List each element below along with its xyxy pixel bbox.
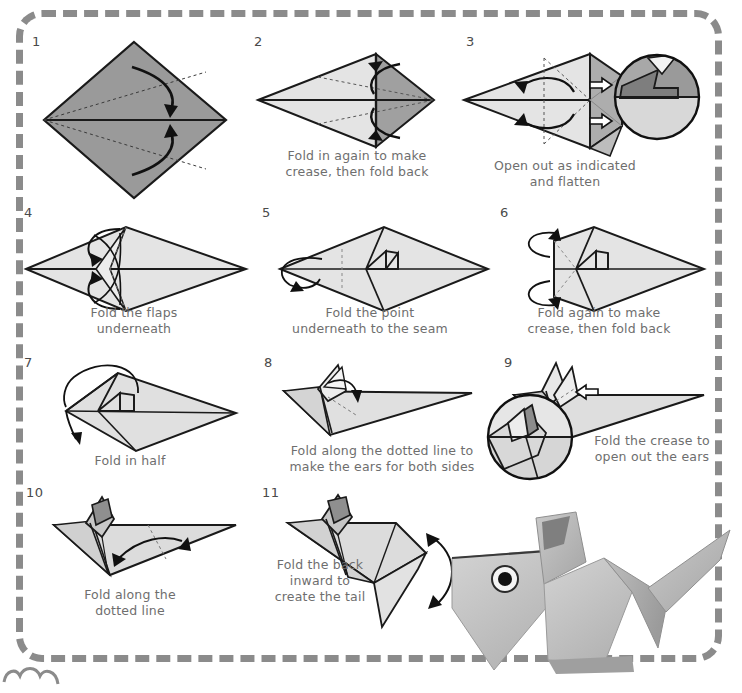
figure-step-1 <box>36 36 236 206</box>
step-caption: Fold the flaps underneath <box>34 305 234 337</box>
step-caption: Open out as indicated and flatten <box>462 158 668 190</box>
step-caption: Fold in half <box>30 453 230 469</box>
magnifier-inset-step-3 <box>615 54 700 139</box>
figure-step-2 <box>256 44 466 159</box>
step-10: 10 Fold along the dotted line <box>20 485 255 635</box>
magnifier-inset-step-9 <box>488 395 572 479</box>
step-caption: Fold along the dotted line to make the e… <box>262 443 502 475</box>
step-1: 1 <box>28 30 243 205</box>
step-6: 6 Fold again to make crease, then fold b… <box>496 205 721 350</box>
figure-step-9 <box>490 361 725 491</box>
step-caption: Fold along the dotted line <box>30 587 230 619</box>
step-3: 3 <box>462 30 717 210</box>
step-9: 9 <box>498 355 728 490</box>
step-number: 4 <box>24 205 33 220</box>
step-caption: Fold in again to make crease, then fold … <box>250 148 464 180</box>
finished-model-photo <box>452 488 742 693</box>
figure-step-6 <box>506 217 716 317</box>
step-caption: Fold again to make crease, then fold bac… <box>496 305 702 337</box>
step-caption: Fold the back inward to create the tail <box>252 557 388 605</box>
figure-step-7 <box>40 361 250 461</box>
figure-step-8 <box>272 361 492 451</box>
figure-step-3 <box>462 40 712 165</box>
step-7: 7 Fold in half <box>20 355 255 490</box>
step-8: 8 Fold along the dotted line to make the… <box>262 355 502 490</box>
figure-step-4 <box>24 219 254 319</box>
cloud-scallop-decoration <box>2 660 72 690</box>
step-number: 7 <box>24 355 33 370</box>
step-caption: Fold the point underneath to the seam <box>260 305 480 337</box>
figure-step-10 <box>40 497 250 597</box>
instruction-sheet: 1 2 <box>0 0 742 693</box>
step-2: 2 Fold in again to make crease, then fol… <box>250 30 470 210</box>
figure-step-5 <box>262 217 492 317</box>
step-caption: Fold the crease to open out the ears <box>574 433 730 465</box>
step-5: 5 Fold the point underneath to the seam <box>258 205 493 350</box>
step-4: 4 Fold the flaps underneath <box>20 205 255 350</box>
